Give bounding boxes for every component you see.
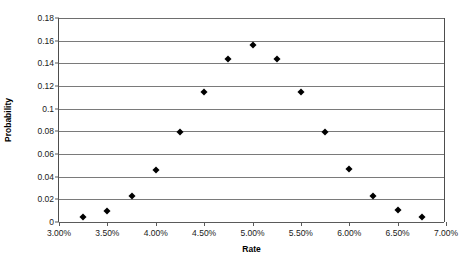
- x-tick-label: 6.50%: [386, 229, 410, 238]
- x-tick-label: 3.00%: [47, 229, 71, 238]
- data-point: [152, 166, 159, 173]
- y-tick-label: 0.14: [37, 59, 54, 68]
- x-tick-label: 6.00%: [337, 229, 361, 238]
- y-tick-label: 0.04: [37, 172, 54, 181]
- y-tick-mark: [55, 131, 59, 132]
- gridline: [59, 63, 444, 64]
- data-point: [104, 207, 111, 214]
- x-tick-label: 5.00%: [240, 229, 264, 238]
- data-point: [201, 88, 208, 95]
- x-tick-label: 3.50%: [95, 229, 119, 238]
- scatter-chart: 0.180.160.140.120.10.080.060.040.020 3.0…: [0, 0, 475, 266]
- y-axis-title: Probability: [3, 98, 13, 142]
- data-point: [418, 214, 425, 221]
- y-tick-label: 0.06: [37, 150, 54, 159]
- y-tick-mark: [55, 86, 59, 87]
- data-point: [322, 129, 329, 136]
- plot-area: 0.180.160.140.120.10.080.060.040.020 3.0…: [58, 18, 445, 222]
- data-point: [273, 55, 280, 62]
- x-tick-mark: [446, 222, 447, 226]
- x-tick-mark: [398, 222, 399, 226]
- data-point: [225, 55, 232, 62]
- y-tick-mark: [55, 154, 59, 155]
- y-tick-label: 0.18: [37, 14, 54, 23]
- y-tick-label: 0.16: [37, 36, 54, 45]
- x-tick-mark: [349, 222, 350, 226]
- y-tick-label: 0.1: [42, 104, 54, 113]
- x-tick-mark: [301, 222, 302, 226]
- gridline: [59, 177, 444, 178]
- gridline: [59, 222, 444, 223]
- x-tick-label: 7.00%: [434, 229, 458, 238]
- gridline: [59, 131, 444, 132]
- y-tick-label: 0.08: [37, 127, 54, 136]
- y-tick-mark: [55, 176, 59, 177]
- x-tick-mark: [253, 222, 254, 226]
- y-tick-label: 0.12: [37, 82, 54, 91]
- x-tick-mark: [204, 222, 205, 226]
- y-tick-mark: [55, 18, 59, 19]
- gridline: [59, 86, 444, 87]
- gridline: [59, 109, 444, 110]
- y-tick-label: 0.02: [37, 195, 54, 204]
- y-tick-mark: [55, 108, 59, 109]
- data-point: [394, 206, 401, 213]
- y-tick-mark: [55, 40, 59, 41]
- data-point: [346, 165, 353, 172]
- gridline: [59, 18, 444, 19]
- x-axis-title: Rate: [58, 244, 445, 254]
- x-tick-label: 4.50%: [192, 229, 216, 238]
- x-tick-label: 5.50%: [289, 229, 313, 238]
- gridline: [59, 199, 444, 200]
- x-tick-label: 4.00%: [144, 229, 168, 238]
- data-point: [176, 129, 183, 136]
- y-tick-mark: [55, 63, 59, 64]
- x-tick-mark: [59, 222, 60, 226]
- data-point: [249, 42, 256, 49]
- gridline: [59, 154, 444, 155]
- y-tick-label: 0: [49, 218, 54, 227]
- x-tick-mark: [156, 222, 157, 226]
- x-tick-mark: [107, 222, 108, 226]
- data-point: [297, 88, 304, 95]
- y-tick-mark: [55, 199, 59, 200]
- data-point: [80, 214, 87, 221]
